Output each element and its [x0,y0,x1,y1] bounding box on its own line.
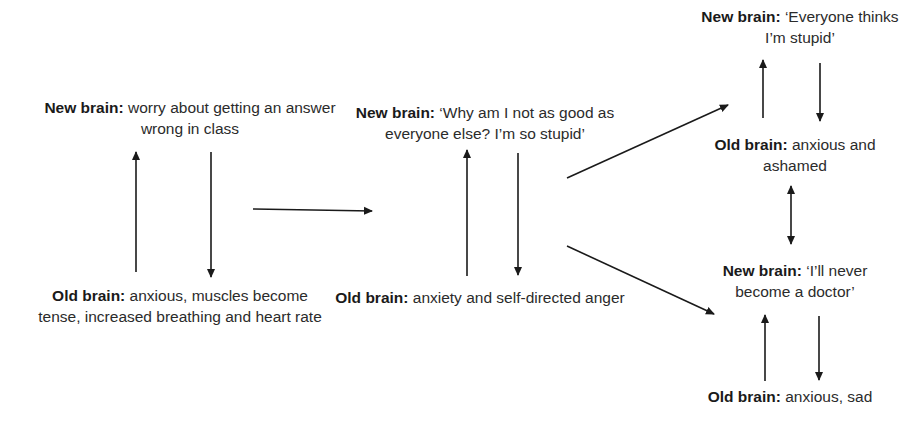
stage2-old-brain: Old brain: anxiety and self-directed ang… [330,287,630,308]
stage3a-old-brain: Old brain: anxious and ashamed [695,134,895,176]
arrow-stage1-to-stage2 [253,209,372,211]
stage3a-new-brain: New brain: ‘Everyone thinks I’m stupid’ [700,6,900,48]
stage3b-old-brain: Old brain: anxious, sad [680,386,900,407]
stage3b-new-brain: New brain: ‘I’ll never become a doctor’ [695,260,895,302]
stage2-new-brain: New brain: ‘Why am I not as good as ever… [330,102,640,144]
arrows-layer [0,0,920,423]
stage1-new-brain: New brain: worry about getting an answer… [30,97,350,139]
stage1-old-brain: Old brain: anxious, muscles become tense… [30,285,330,327]
